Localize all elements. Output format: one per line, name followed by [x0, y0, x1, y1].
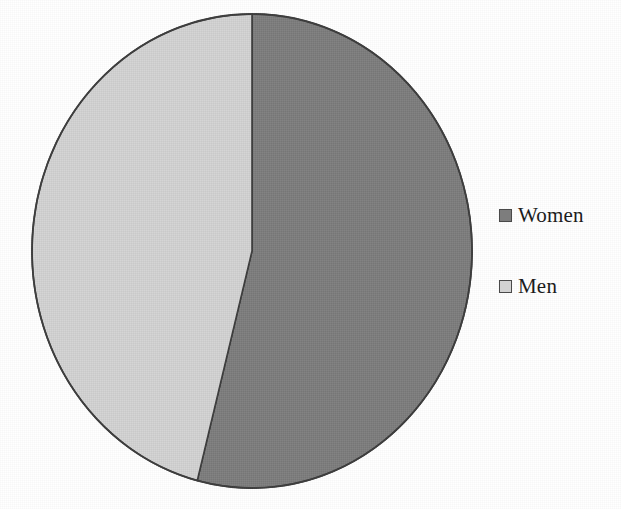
chart-legend: Women Men — [499, 203, 619, 298]
legend-item-women[interactable]: Women — [499, 203, 619, 227]
legend-swatch-men — [499, 280, 512, 293]
pie-chart-figure: Women Men — [0, 0, 621, 509]
legend-item-men[interactable]: Men — [499, 274, 619, 298]
legend-label-women: Women — [518, 205, 584, 226]
legend-swatch-women — [499, 209, 512, 222]
legend-label-men: Men — [518, 276, 557, 297]
